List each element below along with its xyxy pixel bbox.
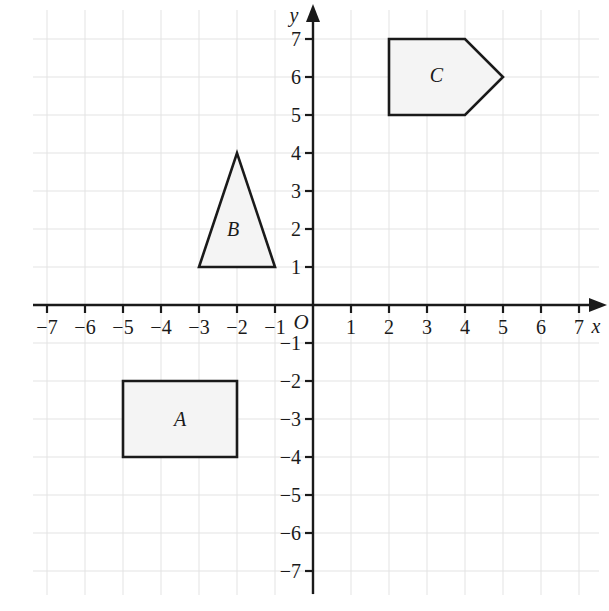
x-tick-label: 4 — [460, 316, 470, 338]
shape-label-b: B — [227, 218, 239, 240]
y-tick-label: 1 — [291, 256, 301, 278]
y-tick-label: −7 — [280, 560, 301, 582]
y-tick-label: −4 — [280, 446, 301, 468]
x-tick-label: −7 — [36, 316, 57, 338]
y-tick-label: −2 — [280, 370, 301, 392]
y-tick-label: −6 — [280, 522, 301, 544]
x-tick-label: −6 — [74, 316, 95, 338]
origin-label: O — [293, 310, 308, 334]
shape-label-a: A — [172, 408, 187, 430]
shape-label-c: C — [430, 64, 444, 86]
x-tick-label: 6 — [536, 316, 546, 338]
x-tick-label: 3 — [422, 316, 432, 338]
x-tick-label: −3 — [188, 316, 209, 338]
y-tick-label: −1 — [280, 332, 301, 354]
y-tick-label: 4 — [291, 142, 301, 164]
y-tick-label: −3 — [280, 408, 301, 430]
y-tick-label: 5 — [291, 104, 301, 126]
x-tick-label: 5 — [498, 316, 508, 338]
x-tick-label: −5 — [112, 316, 133, 338]
coordinate-plane-figure: −7−6−5−4−3−2−11234567−7−6−5−4−3−2−112345… — [0, 0, 609, 611]
y-tick-label: 6 — [291, 66, 301, 88]
y-axis-name: y — [288, 4, 299, 27]
x-tick-label: −4 — [150, 316, 171, 338]
x-tick-label: 7 — [574, 316, 584, 338]
y-tick-label: 7 — [291, 28, 301, 50]
y-tick-label: 2 — [291, 218, 301, 240]
x-tick-label: 1 — [346, 316, 356, 338]
coordinate-plane-svg: −7−6−5−4−3−2−11234567−7−6−5−4−3−2−112345… — [0, 0, 609, 611]
x-tick-label: 2 — [384, 316, 394, 338]
x-tick-label: −2 — [226, 316, 247, 338]
y-tick-label: 3 — [291, 180, 301, 202]
y-tick-label: −5 — [280, 484, 301, 506]
x-axis-name: x — [591, 315, 601, 337]
